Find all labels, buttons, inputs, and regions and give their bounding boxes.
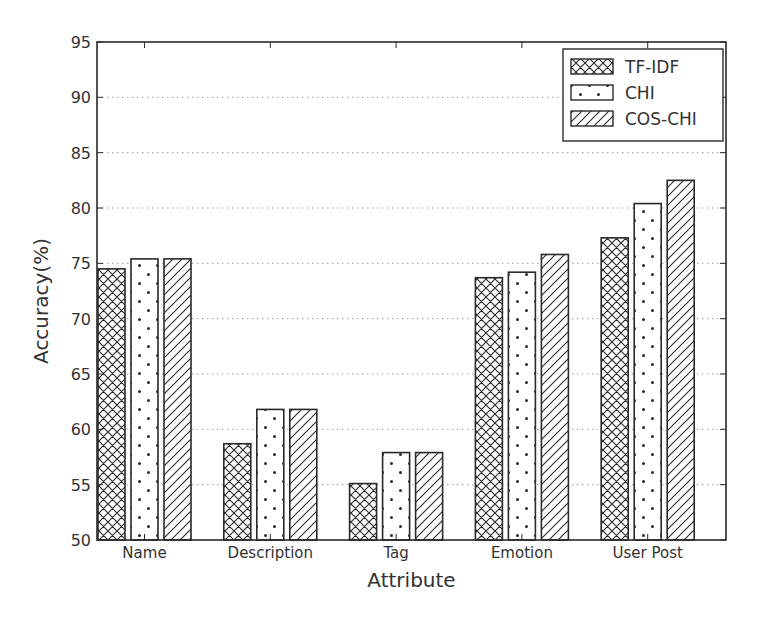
x-axis-label: Attribute <box>367 568 455 592</box>
bar-cos-chi-emotion <box>541 254 568 540</box>
y-tick-label: 80 <box>71 199 91 218</box>
bar-cos-chi-tag <box>416 453 443 540</box>
bar-tf-idf-user-post <box>601 238 628 540</box>
legend-label-chi: CHI <box>625 83 655 103</box>
y-tick-label: 95 <box>71 33 91 52</box>
y-tick-label: 90 <box>71 88 91 107</box>
x-tick-label: Description <box>228 544 313 562</box>
y-tick-label: 65 <box>71 365 91 384</box>
bar-chi-name <box>131 259 158 540</box>
x-tick-label: Name <box>122 544 166 562</box>
legend-swatch-cos-chi <box>571 111 613 126</box>
bar-tf-idf-name <box>98 269 125 540</box>
x-tick-label: User Post <box>613 544 683 562</box>
legend-label-tf-idf: TF-IDF <box>624 57 679 77</box>
y-tick-label: 85 <box>71 144 91 163</box>
bar-chi-tag <box>383 453 410 540</box>
x-tick-label: Tag <box>382 544 408 562</box>
y-tick-label: 50 <box>71 531 91 550</box>
bar-tf-idf-tag <box>350 484 377 540</box>
bar-chi-emotion <box>508 272 535 540</box>
bar-tf-idf-emotion <box>475 278 502 540</box>
legend-label-cos-chi: COS-CHI <box>625 109 697 129</box>
bars <box>98 180 694 540</box>
y-tick-label: 75 <box>71 254 91 273</box>
y-axis-label: Accuracy(%) <box>29 238 53 364</box>
y-tick-label: 70 <box>71 310 91 329</box>
y-tick-label: 60 <box>71 420 91 439</box>
bar-chart: 50556065707580859095NameDescriptionTagEm… <box>0 0 767 620</box>
y-tick-label: 55 <box>71 476 91 495</box>
bar-cos-chi-description <box>290 409 317 540</box>
legend-swatch-chi <box>571 85 613 100</box>
bar-tf-idf-description <box>224 444 251 540</box>
bar-cos-chi-name <box>164 259 191 540</box>
legend-swatch-tf-idf <box>571 59 613 74</box>
x-tick-label: Emotion <box>491 544 553 562</box>
bar-chi-user-post <box>634 204 661 540</box>
legend: TF-IDFCHICOS-CHI <box>563 49 723 141</box>
bar-cos-chi-user-post <box>667 180 694 540</box>
bar-chi-description <box>257 409 284 540</box>
